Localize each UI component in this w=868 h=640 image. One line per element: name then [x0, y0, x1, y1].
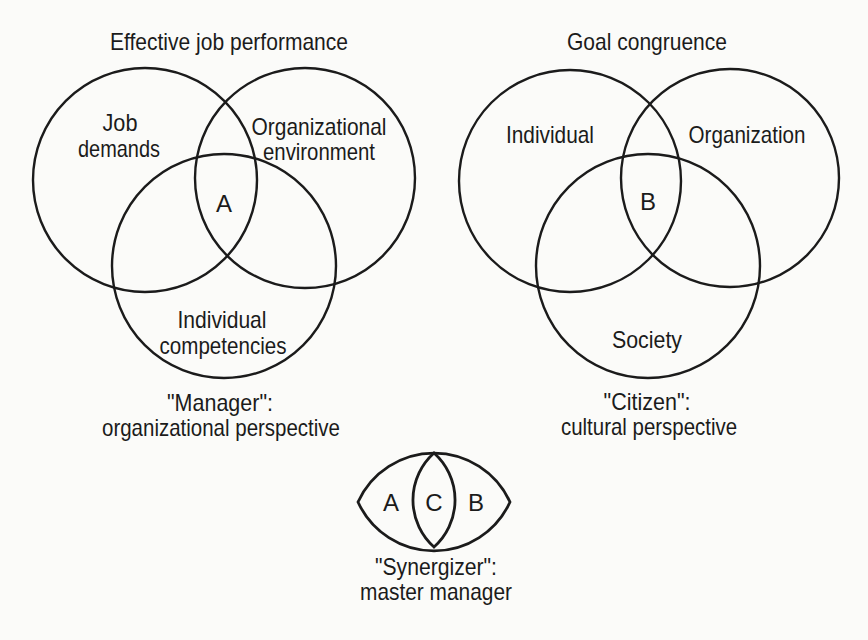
lens-region-a-label: A	[383, 489, 399, 516]
individual-circle	[459, 70, 681, 292]
right-venn-title: Goal congruence	[567, 28, 727, 55]
individual-label: Individual	[506, 121, 594, 148]
manager-caption-line2: organizational perspective	[102, 414, 340, 441]
figure-container: Effective job performance Job demands Or…	[0, 0, 868, 640]
venn-figure-svg: Effective job performance Job demands Or…	[0, 0, 868, 640]
job-demands-circle	[33, 68, 257, 292]
organizational-environment-circle	[195, 68, 415, 288]
lens-region-c-label: C	[425, 489, 442, 516]
left-venn-title: Effective job performance	[110, 28, 348, 55]
organizational-environment-label-line2: environment	[263, 138, 375, 165]
venn-goal-congruence: Goal congruence Individual Organization …	[459, 28, 839, 440]
region-a-label: A	[216, 190, 232, 217]
venn-effective-job-performance: Effective job performance Job demands Or…	[33, 28, 415, 441]
citizen-caption-line1: "Citizen":	[604, 388, 691, 415]
synergizer-caption-line1: "Synergizer":	[375, 553, 497, 580]
citizen-caption-line2: cultural perspective	[561, 413, 737, 440]
lens-region-b-label: B	[468, 489, 484, 516]
individual-competencies-label-line1: Individual	[178, 306, 267, 333]
organization-label: Organization	[689, 121, 806, 148]
organization-circle	[621, 69, 839, 287]
individual-competencies-label-line2: competencies	[160, 332, 287, 359]
synergizer-lens-diagram: A C B "Synergizer": master manager	[358, 453, 512, 605]
organizational-environment-label-line1: Organizational	[252, 113, 387, 140]
job-demands-label-line2: demands	[78, 135, 160, 162]
society-label: Society	[612, 326, 682, 353]
region-b-label: B	[640, 188, 656, 215]
manager-caption-line1: "Manager":	[167, 389, 273, 416]
synergizer-caption-line2: master manager	[360, 578, 512, 605]
job-demands-label-line1: Job	[103, 109, 138, 136]
